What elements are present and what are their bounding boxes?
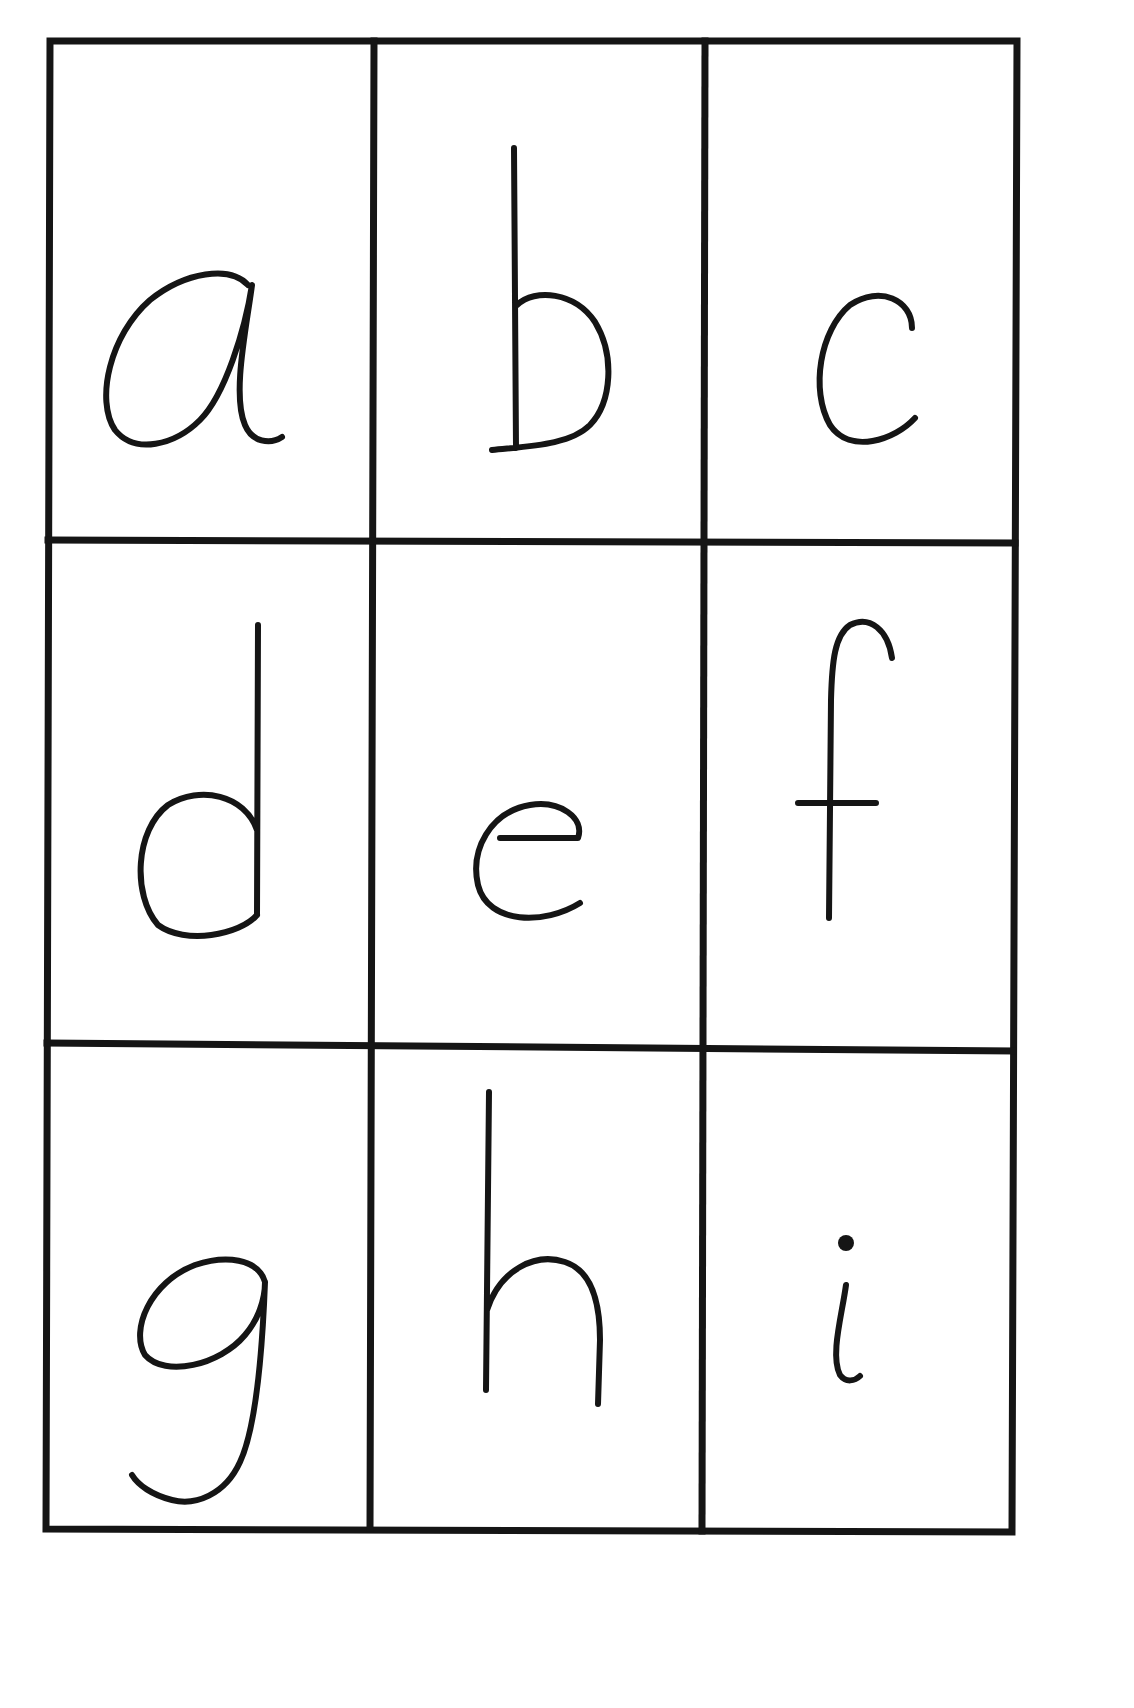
grid-outer-border [46, 41, 1017, 1532]
letter-h-glyph [486, 1092, 600, 1404]
grid-divider-vertical-2 [702, 41, 705, 1531]
i-dot [838, 1235, 854, 1251]
grid-divider-horizontal-2 [47, 1043, 1013, 1051]
grid-divider-horizontal-1 [48, 540, 1015, 543]
letter-g-glyph [132, 1260, 265, 1502]
letter-c-glyph [820, 296, 915, 442]
letter-card-sheet: Lowercase letter cards a–i a b c d e f g… [0, 0, 1134, 1708]
letter-d-glyph [141, 625, 258, 936]
letter-f-glyph [798, 622, 892, 918]
letter-i-glyph [836, 1235, 860, 1380]
letter-b-glyph [492, 148, 608, 450]
letter-grid [0, 0, 1134, 1708]
letter-e-glyph [476, 804, 580, 918]
grid-divider-vertical-1 [370, 41, 374, 1528]
letter-a-glyph [106, 274, 282, 445]
